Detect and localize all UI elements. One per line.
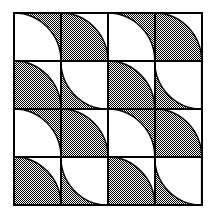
tile: [155, 109, 202, 157]
tile: [108, 13, 155, 61]
tile: [61, 13, 108, 61]
tile: [61, 157, 108, 205]
tiling-figure: [0, 0, 213, 217]
tile: [14, 61, 61, 109]
tile: [155, 13, 202, 61]
tile: [108, 61, 155, 109]
tile: [108, 109, 155, 157]
tile: [61, 61, 108, 109]
tile: [108, 157, 155, 205]
tile: [14, 13, 61, 61]
tile: [14, 157, 61, 205]
tile-grid: [0, 0, 213, 217]
tile: [61, 109, 108, 157]
tile: [14, 109, 61, 157]
tile: [155, 61, 202, 109]
tile: [155, 157, 202, 205]
